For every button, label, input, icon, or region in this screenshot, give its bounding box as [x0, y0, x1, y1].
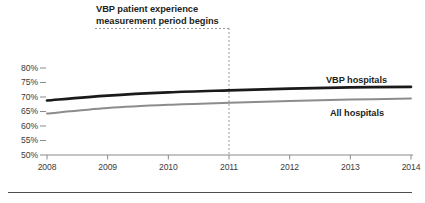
y-axis-tick-marks — [40, 68, 46, 141]
x-axis-tick-marks — [47, 155, 411, 160]
